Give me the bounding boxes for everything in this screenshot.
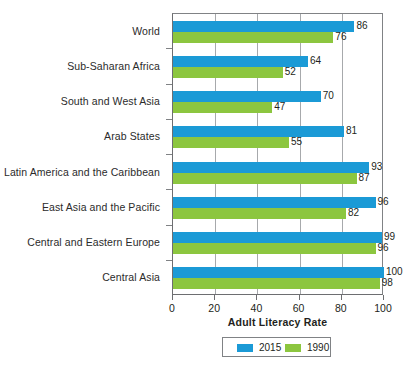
category-tick-5	[166, 189, 172, 190]
category-label-4: Latin America and the Caribbean	[0, 167, 160, 178]
category-tick-3	[166, 119, 172, 120]
bar-2015-6	[173, 232, 382, 243]
x-axis-title: Adult Literacy Rate	[172, 316, 383, 328]
adult-literacy-rate-bar-chart: WorldSub-Saharan AfricaSouth and West As…	[0, 0, 414, 371]
x-tick-label-100: 100	[374, 303, 392, 314]
bar-2015-7	[173, 267, 384, 278]
category-label-2: South and West Asia	[0, 96, 160, 107]
category-axis-labels: WorldSub-Saharan AfricaSouth and West As…	[0, 14, 166, 296]
category-label-7: Central Asia	[0, 272, 160, 283]
value-label-1990-3: 55	[291, 137, 302, 147]
value-label-1990-5: 82	[348, 208, 359, 218]
value-label-2015-1: 64	[310, 56, 321, 66]
bar-2015-4	[173, 162, 369, 173]
category-label-1: Sub-Saharan Africa	[0, 61, 160, 72]
category-tick-2	[166, 84, 172, 85]
legend-item-1990: 1990	[285, 342, 329, 354]
value-label-2015-4: 93	[371, 162, 382, 172]
category-tick-1	[166, 48, 172, 49]
x-tick-label-0: 0	[169, 303, 175, 314]
bar-1990-2	[173, 102, 272, 113]
legend-swatch-1990-icon	[285, 344, 301, 352]
x-tick-label-80: 80	[335, 303, 347, 314]
x-tick-label-40: 40	[251, 303, 263, 314]
category-label-3: Arab States	[0, 131, 160, 142]
bar-2015-5	[173, 197, 376, 208]
value-label-1990-7: 98	[382, 278, 393, 288]
legend-item-2015: 2015	[237, 342, 281, 354]
bar-1990-7	[173, 278, 380, 289]
bar-2015-0	[173, 21, 354, 32]
category-label-0: World	[0, 26, 160, 37]
x-tick-label-60: 60	[293, 303, 305, 314]
x-tick-40	[256, 295, 257, 300]
category-label-6: Central and Eastern Europe	[0, 237, 160, 248]
bar-1990-6	[173, 243, 376, 254]
plot-area	[172, 13, 383, 295]
bar-1990-1	[173, 67, 283, 78]
bar-1990-5	[173, 208, 346, 219]
bar-2015-2	[173, 91, 321, 102]
legend-label-1990: 1990	[307, 343, 329, 353]
x-tick-100	[383, 295, 384, 300]
value-label-2015-0: 86	[356, 21, 367, 31]
value-label-2015-3: 81	[346, 126, 357, 136]
x-tick-80	[341, 295, 342, 300]
value-label-1990-4: 87	[359, 173, 370, 183]
value-label-2015-2: 70	[323, 91, 334, 101]
category-tick-4	[166, 154, 172, 155]
value-label-1990-1: 52	[285, 67, 296, 77]
value-label-2015-7: 100	[386, 267, 403, 277]
value-label-1990-0: 76	[335, 32, 346, 42]
value-label-2015-5: 96	[378, 197, 389, 207]
category-tick-6	[166, 225, 172, 226]
bar-1990-4	[173, 173, 357, 184]
x-tick-label-20: 20	[208, 303, 220, 314]
bar-1990-0	[173, 32, 333, 43]
legend-label-2015: 2015	[259, 343, 281, 353]
value-label-1990-2: 47	[274, 102, 285, 112]
x-tick-20	[214, 295, 215, 300]
x-tick-0	[172, 295, 173, 300]
category-tick-7	[166, 260, 172, 261]
value-label-1990-6: 96	[378, 243, 389, 253]
legend-swatch-2015-icon	[237, 344, 253, 352]
value-label-2015-6: 99	[384, 232, 395, 242]
bar-1990-3	[173, 137, 289, 148]
category-label-5: East Asia and the Pacific	[0, 202, 160, 213]
bar-2015-3	[173, 126, 344, 137]
x-tick-60	[299, 295, 300, 300]
chart-legend: 2015 1990	[222, 337, 331, 357]
